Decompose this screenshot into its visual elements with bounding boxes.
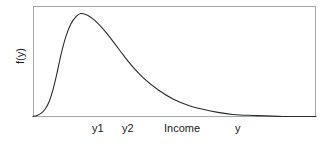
- density-curve-path: [33, 13, 316, 116]
- x-tick-label-y2: y2: [122, 122, 134, 134]
- y-axis-label: f(y): [14, 26, 26, 86]
- x-tick-label-y: y: [235, 122, 241, 134]
- x-tick-label-y1: y1: [92, 122, 104, 134]
- income-density-figure: f(y) y1 y2 Income y: [0, 0, 331, 147]
- density-curve-svg: [33, 6, 316, 117]
- x-axis-title-income: Income: [164, 122, 200, 134]
